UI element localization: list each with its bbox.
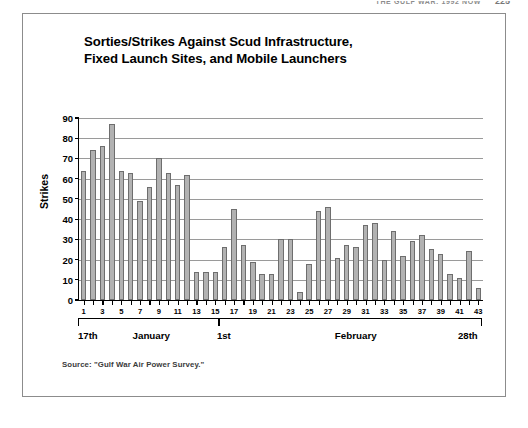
date-label-start: 17th [78, 330, 98, 341]
chart-title-line-2: Fixed Launch Sites, and Mobile Launchers [84, 50, 464, 67]
date-brackets [78, 318, 482, 328]
bracket-january [78, 318, 219, 326]
chart-title-line-1: Sorties/Strikes Against Scud Infrastruct… [84, 34, 352, 49]
running-head-title: THE GULF WAR: 1992 NOW [376, 1, 481, 5]
bracket-february [219, 318, 482, 326]
page-number: 225 [495, 1, 510, 6]
running-head: THE GULF WAR: 1992 NOW 225 [0, 1, 528, 12]
date-label-mid: 1st [217, 330, 231, 341]
date-label-end: 28th [458, 330, 478, 341]
month-label-january: January [132, 330, 170, 341]
source-note: Source: "Gulf War Air Power Survey." [62, 360, 204, 369]
chart-title: Sorties/Strikes Against Scud Infrastruct… [84, 33, 464, 67]
y-axis-title: Strikes [38, 174, 50, 209]
month-label-february: February [335, 330, 377, 341]
